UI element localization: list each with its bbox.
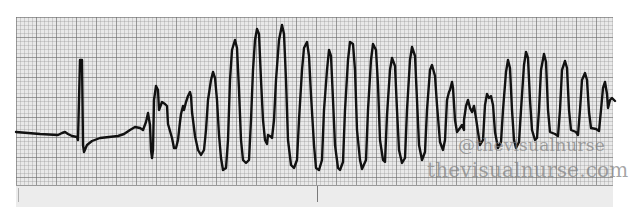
watermark-handle: @thevisualnurse (458, 135, 605, 155)
watermark-site: thevisualnurse.com (427, 158, 629, 182)
